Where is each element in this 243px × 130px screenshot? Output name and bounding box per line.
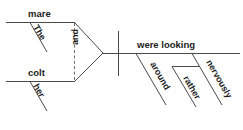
fork-line-lower [75, 53, 104, 82]
label-nervously: nervously [204, 58, 234, 100]
sentence-diagram: mare The colt her and were looking aroun… [0, 0, 243, 130]
label-were-looking: were looking [136, 39, 195, 50]
label-the: The [31, 23, 48, 42]
label-mare: mare [28, 8, 51, 19]
label-her: her [31, 82, 47, 100]
label-around: around [148, 60, 172, 91]
label-and: and [70, 29, 80, 45]
diagram-canvas: mare The colt her and were looking aroun… [0, 0, 243, 130]
label-colt: colt [28, 67, 46, 78]
